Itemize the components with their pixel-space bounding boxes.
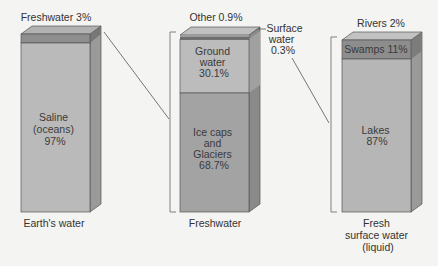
label-swamps: Swamps 11% [344, 43, 407, 55]
caption-fresh-surface-water: Fresh surface water (liquid) [345, 217, 411, 253]
label-surface-water: Surface water 0.3% [266, 22, 305, 56]
connector-line [104, 32, 169, 119]
caption-earths-water: Earth's water [24, 217, 85, 229]
segment-other [180, 35, 249, 37]
segment-freshwater [21, 34, 90, 43]
bar-freshwater: Other 0.9% Ground water 30.1% Ice caps a… [180, 11, 306, 229]
label-groundwater: Ground water 30.1% [195, 45, 233, 79]
bar-earths-water: Freshwater 3% Saline (oceans) 97% Earth'… [21, 11, 101, 229]
label-other: Other 0.9% [189, 11, 242, 23]
water-distribution-chart: Freshwater 3% Saline (oceans) 97% Earth'… [0, 0, 438, 266]
connector-line [292, 58, 329, 123]
bracket-surface-water [331, 37, 337, 212]
label-freshwater-3: Freshwater 3% [21, 11, 92, 23]
bar-fresh-surface-water: Rivers 2% Swamps 11% Lakes 87% Fresh sur… [342, 17, 422, 253]
caption-freshwater: Freshwater [189, 217, 242, 229]
label-icecaps: Ice caps and Glaciers 68.7% [193, 126, 235, 171]
segment-rivers [342, 32, 422, 40]
label-rivers: Rivers 2% [357, 17, 405, 29]
bracket-freshwater [170, 32, 176, 212]
segment-surface [180, 37, 249, 40]
